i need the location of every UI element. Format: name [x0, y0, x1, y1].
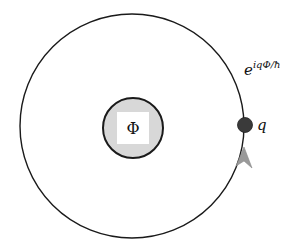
aharonov-bohm-diagram: Φ q eiqΦ/ħ: [0, 0, 302, 246]
phase-base: e: [244, 61, 253, 79]
charge-label: q: [257, 116, 267, 134]
phase-exponent: iqΦ/ħ: [253, 59, 281, 70]
charge-particle: q: [238, 116, 267, 134]
flux-label: Φ: [126, 119, 139, 138]
direction-arrow-icon: [236, 147, 252, 168]
flux-tube: Φ: [103, 98, 163, 158]
phase-factor-label: eiqΦ/ħ: [244, 59, 281, 79]
charge-dot: [238, 118, 253, 133]
